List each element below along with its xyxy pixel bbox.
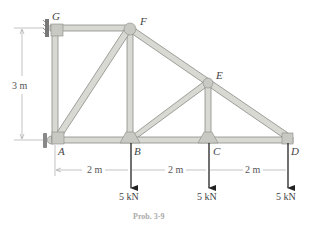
member-ad <box>52 137 293 143</box>
load-label-b: 5 kN <box>119 191 139 202</box>
dimension-ab-label: 2 m <box>87 164 103 175</box>
figure-caption: Prob. 3-9 <box>133 212 164 221</box>
joint-label-c: C <box>213 145 221 157</box>
member-af <box>54 27 131 141</box>
load-label-c: 5 kN <box>197 191 217 202</box>
member-ec <box>205 83 211 140</box>
gusset-plates <box>51 23 293 144</box>
member-fb <box>127 28 133 140</box>
load-label-d: 5 kN <box>276 191 296 202</box>
dimension-height-label: 3 m <box>12 80 28 91</box>
joint-label-g: G <box>52 10 60 22</box>
dimension-cd-label: 2 m <box>245 164 261 175</box>
joint-label-e: E <box>215 69 223 81</box>
joint-label-a: A <box>57 145 65 157</box>
member-be <box>130 80 209 141</box>
member-ga <box>52 28 58 140</box>
truss-members <box>50 25 293 143</box>
joint-label-b: B <box>134 145 141 157</box>
joint-label-f: F <box>139 15 147 27</box>
load-arrows <box>131 143 288 188</box>
joint-label-d: D <box>290 145 299 157</box>
truss-diagram: 3 m 2 m 2 m 2 m 5 kN 5 kN 5 kN G F E A B… <box>0 0 314 229</box>
dimension-bc-label: 2 m <box>168 164 184 175</box>
